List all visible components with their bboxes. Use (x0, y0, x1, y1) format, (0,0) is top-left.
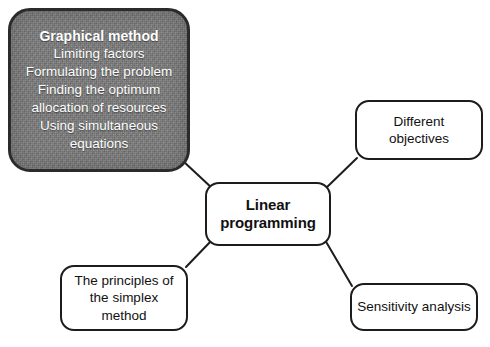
node-linear-programming-label: Linear programming (220, 196, 316, 233)
mind-map-diagram: Graphical method Limiting factors Formul… (0, 0, 490, 347)
graphical-method-line-1: Graphical method (17, 27, 181, 46)
graphical-method-line-6: Using simultaneous (17, 117, 181, 135)
connector-simplex-to-center (186, 240, 212, 267)
node-sensitivity-analysis[interactable]: Sensitivity analysis (350, 283, 478, 331)
node-graphical-method[interactable]: Graphical method Limiting factors Formul… (8, 8, 190, 172)
node-simplex-method-label: The principles of the simplex method (74, 272, 173, 324)
graphical-method-line-5: allocation of resources (17, 99, 181, 117)
graphical-method-line-4: Finding the optimum (17, 81, 181, 99)
connector-sensitivity-to-center (325, 240, 352, 286)
graphical-method-line-3: Formulating the problem (17, 63, 181, 81)
node-simplex-method[interactable]: The principles of the simplex method (60, 265, 188, 331)
node-sensitivity-analysis-label: Sensitivity analysis (357, 298, 470, 315)
graphical-method-line-7: equations (17, 135, 181, 153)
connector-objectives-to-center (325, 158, 357, 189)
node-different-objectives[interactable]: Different objectives (355, 100, 483, 160)
graphical-method-line-2: Limiting factors (17, 45, 181, 63)
node-different-objectives-label: Different objectives (389, 113, 449, 148)
node-linear-programming[interactable]: Linear programming (205, 182, 331, 246)
graphical-method-text-block: Graphical method Limiting factors Formul… (17, 27, 181, 153)
